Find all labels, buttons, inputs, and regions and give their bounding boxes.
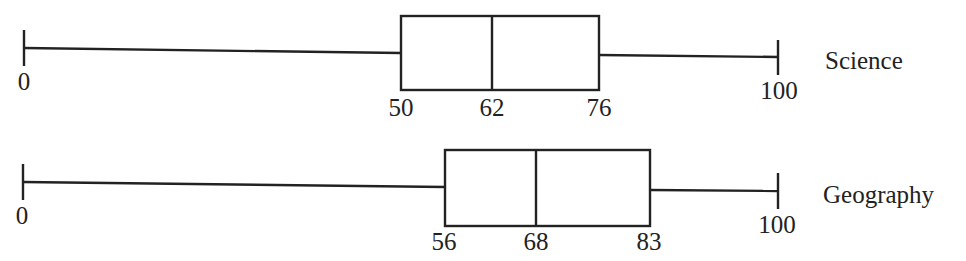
geography-median-label: 68 [524, 228, 549, 255]
science-median-label: 62 [480, 94, 505, 121]
science-upper-whisker [599, 55, 778, 57]
geography-q3-label: 83 [637, 228, 662, 255]
science-lower-whisker [24, 48, 401, 53]
science-min-label: 0 [18, 68, 31, 95]
science-max-label: 100 [760, 77, 798, 104]
science-box [401, 16, 599, 90]
geography-max-label: 100 [758, 211, 796, 238]
geography-upper-whisker [650, 190, 778, 191]
geography-box [445, 150, 650, 226]
geography-min-label: 0 [16, 202, 29, 229]
geography-q1-label: 56 [432, 228, 457, 255]
geography-series-label: Geography [823, 181, 935, 208]
box-plot-figure: 0 50 62 76 100 Science 0 56 68 83 100 Ge… [0, 0, 966, 261]
science-q1-label: 50 [389, 94, 414, 121]
geography-boxplot: 0 56 68 83 100 Geography [16, 150, 935, 255]
science-q3-label: 76 [587, 94, 612, 121]
science-series-label: Science [825, 47, 903, 74]
geography-lower-whisker [23, 182, 445, 187]
science-boxplot: 0 50 62 76 100 Science [18, 16, 903, 121]
